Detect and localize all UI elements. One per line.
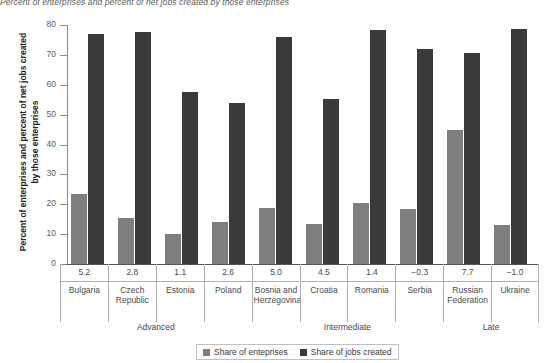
category-value: −0.3: [396, 264, 443, 282]
y-tick-label-50: 50: [38, 109, 56, 119]
bar-group: [162, 25, 209, 264]
category-axis: 5.2Bulgaria2.8Czech Republic1.1Estonia2.…: [60, 264, 539, 322]
y-tick-30: [60, 174, 67, 175]
bar[interactable]: [135, 32, 151, 264]
bar-group: [444, 25, 491, 264]
category-label: Poland: [205, 285, 252, 295]
y-tick-40: [60, 145, 67, 146]
bar[interactable]: [229, 103, 245, 264]
y-tick-label-30: 30: [38, 168, 56, 178]
bar-group: [491, 25, 538, 264]
stage-label: Advanced: [60, 322, 252, 332]
bar[interactable]: [88, 34, 104, 264]
category-cell: 1.4Romania: [347, 264, 395, 322]
category-value: 5.0: [253, 264, 300, 282]
category-label: Estonia: [157, 285, 204, 295]
bar-group: [397, 25, 444, 264]
bar[interactable]: [276, 37, 292, 264]
category-value: 2.8: [109, 264, 156, 282]
category-value: 7.7: [444, 264, 491, 282]
y-tick-label-80: 80: [38, 19, 56, 29]
legend-label-jobs: Share of jobs created: [311, 347, 392, 357]
category-cell: 2.6Poland: [204, 264, 252, 322]
bar-group: [350, 25, 397, 264]
bar-group: [68, 25, 115, 264]
category-value: −1.0: [492, 264, 538, 282]
chart-figure: Percent of enterprises and percent of ne…: [0, 0, 555, 363]
category-value: 1.1: [157, 264, 204, 282]
chart-legend: Share of enteprises Share of jobs create…: [196, 344, 399, 360]
category-label: Ukraine: [492, 285, 538, 295]
bar[interactable]: [400, 209, 416, 264]
y-tick-label-20: 20: [38, 198, 56, 208]
category-label: Serbia: [396, 285, 443, 295]
category-cell: 5.2Bulgaria: [60, 264, 108, 322]
category-value: 1.4: [348, 264, 395, 282]
bar[interactable]: [511, 29, 527, 264]
bar[interactable]: [165, 234, 181, 264]
bar[interactable]: [353, 203, 369, 264]
y-tick-label-0: 0: [38, 258, 56, 268]
category-value: 4.5: [301, 264, 348, 282]
y-tick-10: [60, 234, 67, 235]
y-tick-label-40: 40: [38, 139, 56, 149]
category-value: 2.6: [205, 264, 252, 282]
category-cell: 7.7Russian Federation: [443, 264, 491, 322]
stage-label: Late: [443, 322, 539, 332]
bar-group: [303, 25, 350, 264]
category-cell: −1.0Ukraine: [491, 264, 539, 322]
category-label: Czech Republic: [109, 285, 156, 305]
y-tick-80: [60, 25, 67, 26]
y-tick-label-60: 60: [38, 79, 56, 89]
figure-title: Percent of enterprises and percent of ne…: [0, 0, 555, 7]
y-tick-70: [60, 55, 67, 56]
bar[interactable]: [182, 92, 198, 264]
y-tick-50: [60, 115, 67, 116]
legend-item-enterprises[interactable]: Share of enteprises: [203, 347, 288, 357]
bar[interactable]: [118, 218, 134, 264]
legend-item-jobs[interactable]: Share of jobs created: [300, 347, 392, 357]
bar[interactable]: [494, 225, 510, 264]
bar[interactable]: [259, 208, 275, 264]
bar-group: [256, 25, 303, 264]
category-label: Croatia: [301, 285, 348, 295]
y-tick-label-10: 10: [38, 228, 56, 238]
stage-group-labels: AdvancedIntermediateLate: [60, 322, 539, 338]
category-label: Russian Federation: [444, 285, 491, 305]
legend-label-enterprises: Share of enteprises: [214, 347, 288, 357]
bar[interactable]: [212, 222, 228, 264]
stage-label: Intermediate: [252, 322, 444, 332]
category-cell: 1.1Estonia: [156, 264, 204, 322]
bar-group: [209, 25, 256, 264]
category-label: Romania: [348, 285, 395, 295]
y-tick-20: [60, 204, 67, 205]
y-tick-label-70: 70: [38, 49, 56, 59]
bar[interactable]: [417, 49, 433, 264]
category-value: 5.2: [61, 264, 108, 282]
legend-swatch-enterprises: [203, 349, 210, 356]
category-label: Bosnia and Herzegovina: [253, 285, 300, 305]
bar-group: [115, 25, 162, 264]
bar[interactable]: [447, 130, 463, 264]
bar[interactable]: [323, 99, 339, 265]
category-label: Bulgaria: [61, 285, 108, 295]
category-cell: 2.8Czech Republic: [108, 264, 156, 322]
category-cell: −0.3Serbia: [395, 264, 443, 322]
bar[interactable]: [71, 194, 87, 264]
bar[interactable]: [370, 30, 386, 264]
y-tick-60: [60, 85, 67, 86]
bar[interactable]: [464, 53, 480, 265]
category-cell: 4.5Croatia: [300, 264, 348, 322]
plot-area: [68, 25, 538, 264]
legend-swatch-jobs: [300, 349, 307, 356]
bar[interactable]: [306, 224, 322, 264]
category-cell: 5.0Bosnia and Herzegovina: [252, 264, 300, 322]
